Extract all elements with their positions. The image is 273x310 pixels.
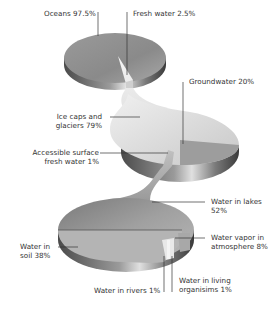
label-fresh-water: Fresh water 2.5% bbox=[133, 9, 195, 18]
label-groundwater: Groundwater 20% bbox=[189, 77, 254, 86]
label-ice-caps: Ice caps and glaciers 79% bbox=[50, 112, 102, 130]
label-soil: Water in soil 38% bbox=[20, 242, 50, 260]
label-oceans: Oceans 97.5% bbox=[44, 9, 96, 18]
pie-fresh-water bbox=[110, 94, 239, 182]
label-lakes: Water in lakes 52% bbox=[211, 197, 262, 215]
label-accessible-surface: Accessible surface fresh water 1% bbox=[24, 148, 99, 166]
label-rivers: Water in rivers 1% bbox=[94, 286, 160, 295]
label-vapor: Water vapor in atmosphere 8% bbox=[211, 233, 268, 251]
pie-oceans bbox=[64, 33, 166, 90]
pie-accessible-water bbox=[58, 198, 194, 272]
water-distribution-diagram: Oceans 97.5% Fresh water 2.5% Groundwate… bbox=[0, 0, 273, 310]
label-living-organisms: Water in living organisims 1% bbox=[179, 276, 232, 294]
